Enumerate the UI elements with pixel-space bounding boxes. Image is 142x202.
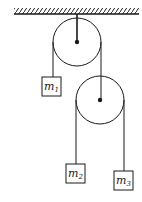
top-pulley	[53, 14, 101, 66]
mass-m2: m2	[66, 164, 85, 183]
mass-m3: m3	[114, 171, 133, 190]
lower-pulley	[76, 76, 124, 124]
top-pulley-axle	[75, 40, 79, 44]
mass-m1: m1	[42, 77, 61, 96]
lower-pulley-axle	[98, 98, 102, 102]
pulley-diagram: m1 m2 m3	[0, 0, 142, 202]
ceiling-hatching	[14, 8, 139, 14]
ceiling	[14, 8, 139, 14]
